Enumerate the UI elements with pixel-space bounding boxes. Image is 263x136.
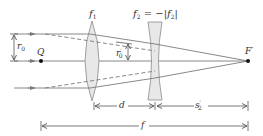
point-F-prime xyxy=(246,59,250,63)
label-f1: f1 xyxy=(89,9,97,20)
label-F-prime: F′ xyxy=(245,47,253,56)
label-r0: r0 xyxy=(17,42,25,52)
label-Q: Q xyxy=(37,48,44,57)
point-Q xyxy=(39,59,43,63)
label-s2-prime: s′2 xyxy=(195,100,202,111)
r0-prime-tick xyxy=(116,42,132,44)
telephoto-ray-diagram xyxy=(0,0,263,136)
refracted-ray-top xyxy=(90,34,248,61)
refracted-ray-bottom xyxy=(90,61,248,88)
converging-lens-f1 xyxy=(85,21,99,101)
equivalent-ray-top xyxy=(45,34,155,51)
label-d: d xyxy=(119,101,125,110)
label-f: f xyxy=(141,121,144,130)
label-f2-equation: f2 = −|f2| xyxy=(133,9,178,20)
equivalent-ray-bottom xyxy=(45,71,155,88)
label-r0-prime: r′0 xyxy=(116,48,123,59)
